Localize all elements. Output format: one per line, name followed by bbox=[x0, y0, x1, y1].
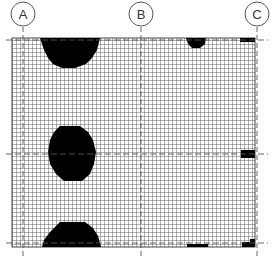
grid-field bbox=[12, 38, 255, 247]
axis-label-b: B bbox=[137, 7, 146, 22]
grid-plan-diagram: ABC bbox=[0, 0, 274, 260]
bottom-mid-edge bbox=[187, 244, 208, 247]
axis-label-c: C bbox=[252, 7, 261, 22]
axis-bubbles: ABC bbox=[11, 2, 269, 26]
axis-label-a: A bbox=[19, 7, 28, 22]
